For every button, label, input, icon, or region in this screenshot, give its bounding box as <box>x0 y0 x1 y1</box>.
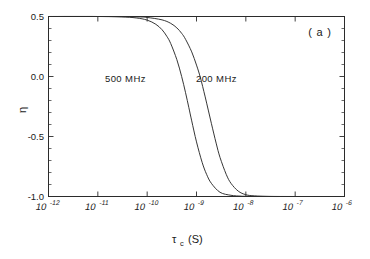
x-tick-label: 10-9 <box>183 199 205 212</box>
x-axis-title: τ c (S) <box>172 233 203 248</box>
svg-text:-12: -12 <box>49 199 60 206</box>
series-label-500mhz: 500 MHz <box>105 73 146 84</box>
x-tick-label: 10-6 <box>331 199 353 212</box>
svg-text:10: 10 <box>281 201 294 212</box>
x-axis-title-symbol: τ <box>172 233 177 245</box>
y-axis-ticks <box>49 17 345 197</box>
svg-text:-8: -8 <box>247 199 255 206</box>
y-axis-title: η <box>16 107 28 113</box>
svg-text:10: 10 <box>183 201 196 212</box>
svg-text:10: 10 <box>84 201 97 212</box>
axes-frame <box>49 17 345 197</box>
svg-text:-11: -11 <box>99 199 110 206</box>
y-tick-label: -1.0 <box>28 191 44 202</box>
x-axis-ticks <box>49 17 345 197</box>
y-tick-label: 0.5 <box>31 11 44 22</box>
svg-text:-6: -6 <box>345 199 353 206</box>
y-tick-label: -0.5 <box>28 131 44 142</box>
svg-text:10: 10 <box>133 201 146 212</box>
data-series-group <box>49 16 345 196</box>
svg-text:10: 10 <box>35 201 48 212</box>
svg-text:10: 10 <box>331 201 344 212</box>
panel-label: ( a ) <box>308 26 332 38</box>
x-axis-title-unit: (S) <box>188 233 203 245</box>
x-tick-label: 10-11 <box>84 199 110 212</box>
series-label-200mhz: 200 MHz <box>196 73 237 84</box>
y-tick-label: 0.0 <box>31 71 44 82</box>
figure-container: 10-1210-1110-1010-910-810-710-6 0.50.0-0… <box>0 0 370 259</box>
svg-text:-7: -7 <box>296 199 304 206</box>
y-axis-tick-labels: 0.50.0-0.5-1.0 <box>28 11 44 202</box>
svg-text:-10: -10 <box>148 199 159 206</box>
svg-text:-9: -9 <box>197 199 205 206</box>
x-axis-title-subscript: c <box>180 239 184 248</box>
curve-500mhz <box>49 16 345 196</box>
x-tick-label: 10-10 <box>133 199 159 212</box>
x-tick-label: 10-7 <box>281 199 303 212</box>
chart-canvas: 10-1210-1110-1010-910-810-710-6 0.50.0-0… <box>0 0 370 259</box>
x-tick-label: 10-8 <box>232 199 254 212</box>
x-axis-tick-labels: 10-1210-1110-1010-910-810-710-6 <box>35 199 353 212</box>
curve-200mhz <box>49 16 345 196</box>
svg-text:10: 10 <box>232 201 245 212</box>
